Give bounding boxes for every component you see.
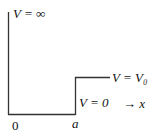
potential-step-diagram: V = ∞ V = V₀ V = 0 → x 0 a — [0, 0, 160, 136]
infinite-wall-label: V = ∞ — [13, 7, 45, 20]
x-axis-label: → x — [123, 97, 145, 110]
zero-level-label: V = 0 — [79, 96, 108, 109]
origin-label: 0 — [12, 119, 19, 132]
step-level-label: V = V₀ — [112, 71, 147, 84]
step-position-label: a — [72, 117, 79, 130]
